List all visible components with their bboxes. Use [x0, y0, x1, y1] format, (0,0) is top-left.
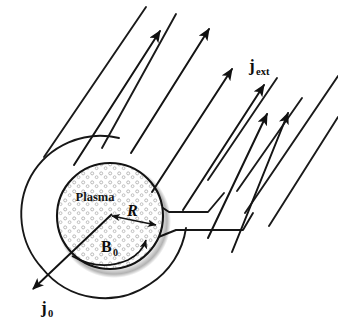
b-field-label-base: B: [101, 238, 112, 255]
plasma-label: Plasma: [76, 190, 116, 204]
boundary-line: [44, 7, 146, 157]
current-arrow: [208, 114, 267, 238]
j-ext-label-base: j: [248, 56, 255, 75]
j-zero-label-base: j: [40, 298, 47, 317]
diagram-canvas: Plasma R B 0 j ext j 0: [0, 0, 338, 329]
current-arrow: [131, 29, 209, 153]
plasma-diagram-figure: Plasma R B 0 j ext j 0: [0, 0, 338, 329]
j-ext-label-sub: ext: [256, 66, 270, 77]
j-ext-label: j ext: [248, 56, 270, 77]
boundary-line: [102, 14, 176, 148]
current-arrow: [232, 113, 288, 252]
radius-label: R: [126, 202, 138, 219]
current-arrow: [152, 69, 232, 192]
plasma-core-group: [57, 163, 171, 278]
j-zero-label: j 0: [40, 298, 53, 319]
b-field-label-sub: 0: [113, 247, 118, 258]
boundary-line: [245, 76, 338, 213]
j-zero-label-sub: 0: [48, 308, 53, 319]
